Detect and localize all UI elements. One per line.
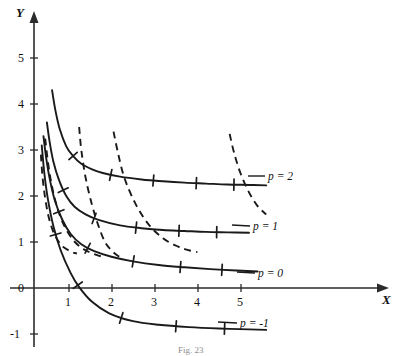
y-axis-arrowhead [30,11,39,23]
curve-label-p2: p = 2 [248,170,293,183]
x-tick-label-2: 2 [108,295,114,309]
hash-mark-c0-2 [153,175,154,186]
hash-mark-c1-2 [135,222,136,233]
y-tick-label-1: 1 [18,235,24,249]
curve-label-text-pminus1: p = -1 [239,317,269,330]
leader-line-p0 [237,272,255,273]
curve-p-2 [52,90,266,185]
curve-label-p0: p = 0 [237,267,283,280]
curve-orthogonal-trajectory-5 [230,134,267,215]
hash-mark-c2-3 [180,261,181,272]
x-tick-label-5: 5 [237,295,243,309]
leader-line-pminus1 [218,322,237,323]
hash-mark-c2-2 [132,256,134,267]
hash-mark-c3-3 [176,321,177,332]
x-tick-label-3: 3 [151,295,157,309]
y-axis-label: Y [16,5,25,20]
curve-p-1 [47,122,249,232]
hash-mark-c0-1 [110,170,112,181]
y-tick-label-0: 0 [18,281,24,295]
curve-label-text-p2: p = 2 [267,170,293,183]
hash-mark-c2-4 [222,264,223,275]
x-axis-label: X [381,292,391,307]
y-tick-label-4: 4 [18,97,24,111]
figure-caption: Fig. 23 [178,345,204,355]
curves-layer [41,90,266,330]
figure-panel: Y X 5 4 3 2 1 0 -1 1 [0,0,404,356]
curve-label-text-p1: p = 1 [252,220,278,233]
curve-p-0 [43,136,257,271]
x-tick-label-4: 4 [194,295,200,309]
y-tick-label-5: 5 [18,51,24,65]
plot-canvas: Y X 5 4 3 2 1 0 -1 1 [0,0,404,356]
curve-label-p1: p = 1 [232,220,278,233]
curve-label-text-p0: p = 0 [257,267,283,280]
y-tick-label-3: 3 [18,143,24,157]
curve-orthogonal-trajectory-4 [114,132,198,253]
leader-line-p1 [232,225,250,226]
y-tick-label-minus1: -1 [10,327,20,341]
x-tick-label-1: 1 [65,295,71,309]
y-tick-label-2: 2 [18,189,24,203]
